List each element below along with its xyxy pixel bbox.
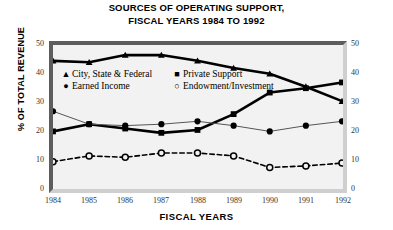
data-point xyxy=(53,129,56,135)
x-tick-label-1987: 1987 xyxy=(144,196,178,205)
legend-label-private-support: Private Support xyxy=(183,68,242,80)
y-tick-label-left-20: 20 xyxy=(28,126,44,135)
y-tick-label-right-10: 10 xyxy=(351,155,367,164)
x-tick-label-1991: 1991 xyxy=(289,196,323,205)
data-point xyxy=(86,153,92,159)
chart-title-line-1: SOURCES OF OPERATING SUPPORT, xyxy=(0,2,393,15)
data-point xyxy=(53,159,56,165)
data-point xyxy=(195,150,201,156)
legend-label-city-state-federal: City, State & Federal xyxy=(72,68,152,80)
y-tick-label-right-40: 40 xyxy=(351,68,367,77)
data-point xyxy=(195,127,201,133)
chart-title: SOURCES OF OPERATING SUPPORT, FISCAL YEA… xyxy=(0,2,393,27)
y-tick-label-left-0: 0 xyxy=(28,184,44,193)
data-point xyxy=(339,160,343,166)
data-point xyxy=(158,121,164,127)
data-point xyxy=(303,123,309,129)
data-point xyxy=(122,123,128,129)
square-marker-icon: ■ xyxy=(171,68,183,80)
legend-item-endowment-investment: ○ Endowment/Investment xyxy=(171,80,274,92)
legend-item-city-state-federal: ▲ City, State & Federal xyxy=(60,68,171,80)
data-point xyxy=(339,80,343,86)
data-point xyxy=(303,85,309,91)
data-point xyxy=(122,154,128,160)
x-tick-label-1986: 1986 xyxy=(108,196,142,205)
y-tick-label-left-40: 40 xyxy=(28,68,44,77)
data-point xyxy=(267,164,273,170)
chart-container: SOURCES OF OPERATING SUPPORT, FISCAL YEA… xyxy=(0,0,393,230)
data-point xyxy=(158,130,164,136)
data-point xyxy=(303,163,309,169)
triangle-marker-icon: ▲ xyxy=(60,68,72,80)
x-axis-title: FISCAL YEARS xyxy=(0,211,393,222)
x-tick-label-1992: 1992 xyxy=(326,196,360,205)
x-tick-label-1988: 1988 xyxy=(181,196,215,205)
data-point xyxy=(267,128,273,134)
legend-label-earned-income: Earned Income xyxy=(72,80,130,92)
y-tick-label-right-20: 20 xyxy=(351,126,367,135)
data-point xyxy=(194,118,200,124)
series-endowment-investment xyxy=(53,150,343,170)
legend-item-private-support: ■ Private Support xyxy=(171,68,242,80)
data-point xyxy=(231,111,237,117)
data-point xyxy=(339,118,343,124)
y-tick-label-left-50: 50 xyxy=(28,39,44,48)
plot-svg xyxy=(53,45,343,189)
data-point xyxy=(53,108,56,114)
plot-area xyxy=(49,41,347,193)
x-tick-label-1984: 1984 xyxy=(36,196,70,205)
chart-legend: ▲ City, State & Federal ■ Private Suppor… xyxy=(60,68,274,92)
data-point xyxy=(231,123,237,129)
y-tick-label-left-30: 30 xyxy=(28,97,44,106)
circle-open-marker-icon: ○ xyxy=(171,80,183,92)
legend-label-endowment-investment: Endowment/Investment xyxy=(183,80,274,92)
data-point xyxy=(231,153,237,159)
data-point xyxy=(86,121,92,127)
y-tick-label-right-50: 50 xyxy=(351,39,367,48)
data-point xyxy=(158,150,164,156)
y-tick-label-right-30: 30 xyxy=(351,97,367,106)
chart-title-line-2: FISCAL YEARS 1984 TO 1992 xyxy=(0,15,393,28)
circle-filled-marker-icon: ● xyxy=(60,80,72,92)
x-tick-label-1985: 1985 xyxy=(72,196,106,205)
x-tick-label-1990: 1990 xyxy=(253,196,287,205)
legend-item-earned-income: ● Earned Income xyxy=(60,80,171,92)
y-tick-label-left-10: 10 xyxy=(28,155,44,164)
x-tick-label-1989: 1989 xyxy=(217,196,251,205)
y-axis-title: % OF TOTAL REVENUE xyxy=(16,4,26,154)
y-tick-label-right-0: 0 xyxy=(351,184,367,193)
